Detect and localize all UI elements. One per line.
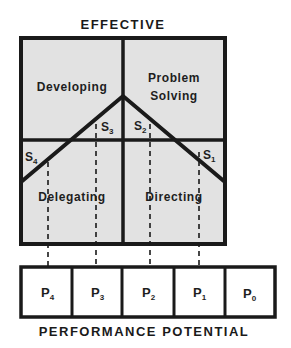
performance-row: P4 P3 P2 P1 P0 bbox=[21, 267, 275, 317]
quadrant-problem-solving-line2: Solving bbox=[150, 89, 198, 103]
quadrant-directing: Directing bbox=[145, 190, 202, 204]
title-effective: EFFECTIVE bbox=[80, 17, 165, 32]
quadrant-developing: Developing bbox=[37, 80, 108, 94]
situational-leadership-diagram: EFFECTIVE Developing Problem Solving Del… bbox=[0, 0, 291, 348]
quadrant-delegating: Delegating bbox=[38, 190, 105, 204]
title-performance-potential: PERFORMANCE POTENTIAL bbox=[39, 324, 250, 339]
quadrant-problem-solving-line1: Problem bbox=[148, 71, 200, 85]
